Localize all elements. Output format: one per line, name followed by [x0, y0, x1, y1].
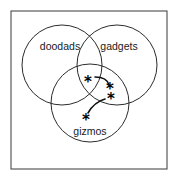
marker-asterisk-4: *	[82, 111, 90, 129]
set-label-gadgets: gadgets	[100, 40, 137, 52]
marker-asterisk-3: *	[107, 90, 115, 108]
marker-asterisk-1: *	[84, 73, 92, 91]
venn-diagram-canvas: doodads gadgets gizmos * * * *	[0, 0, 177, 179]
venn-diagram-figure: doodads gadgets gizmos * * * *	[0, 0, 177, 179]
set-label-gizmos: gizmos	[73, 125, 106, 137]
set-label-doodads: doodads	[40, 40, 80, 52]
